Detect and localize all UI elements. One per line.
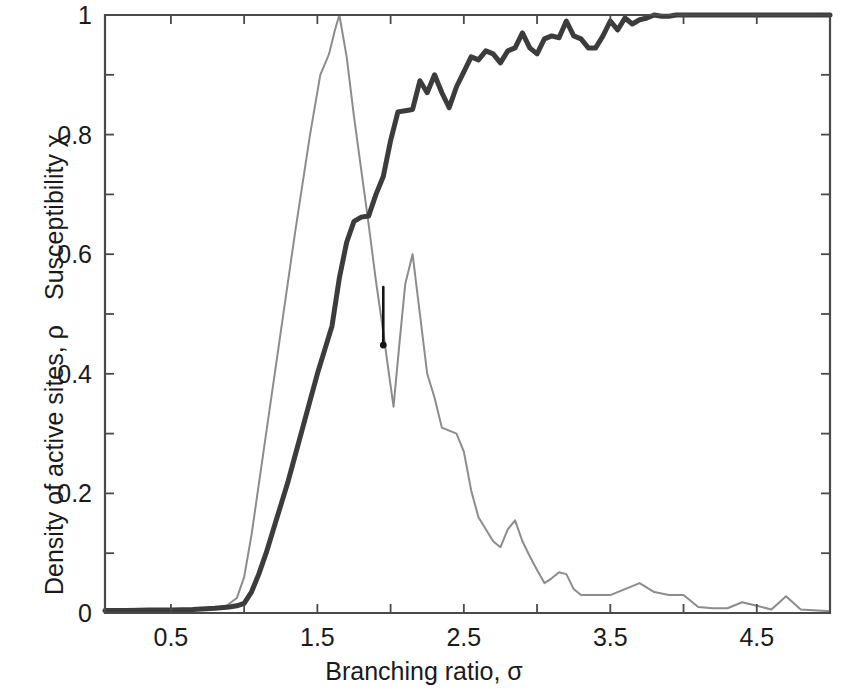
x-tick-label: 0.5 (154, 623, 189, 651)
ticks-layer (105, 15, 830, 613)
x-axis-title: Branching ratio, σ (0, 657, 848, 686)
series-density-of-active-sites (105, 15, 830, 611)
chart-figure: 0.51.52.53.54.500.20.40.60.81 Susceptibi… (0, 0, 848, 693)
axis-frame (105, 15, 830, 613)
x-tick-label: 3.5 (593, 623, 628, 651)
plot-canvas: 0.51.52.53.54.500.20.40.60.81 (0, 0, 848, 693)
x-tick-label: 1.5 (300, 623, 335, 651)
series-susceptibility (105, 15, 830, 611)
x-tick-label: 4.5 (739, 623, 774, 651)
y-axis-title-density: Density of active sites, ρ (40, 325, 69, 595)
x-tick-label: 2.5 (446, 623, 481, 651)
annotation-marker-dot (380, 342, 387, 349)
series-layer (105, 15, 830, 611)
y-tick-label: 0 (78, 599, 92, 627)
y-axis-title-susceptibility: Susceptibility χ (40, 134, 69, 300)
y-tick-label: 1 (78, 1, 92, 29)
axes-layer (105, 15, 830, 613)
